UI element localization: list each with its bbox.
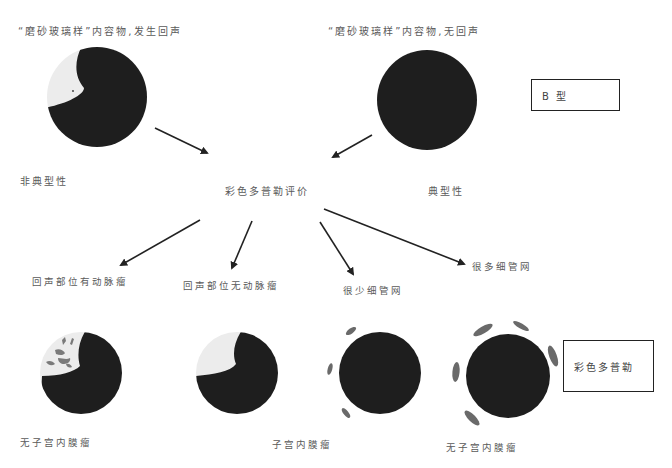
- outcome-circle-echo-only: [194, 330, 282, 420]
- typical-cyst-circle: [377, 50, 477, 150]
- atypical-label: 非典型性: [20, 173, 68, 188]
- typical-label: 典型性: [428, 183, 464, 198]
- outcome-circle-many-capillaries: [452, 319, 561, 427]
- outcome-no-endometrioma-2: 无子宫内膜瘤: [446, 440, 518, 454]
- top-left-description: “磨砂玻璃样”内容物,发生回声: [18, 23, 182, 38]
- flow-arrows: [121, 128, 464, 274]
- outcome-endometrioma: 子宫内膜瘤: [272, 437, 332, 451]
- few-capillaries-label: 很少细管网: [343, 283, 403, 297]
- echo-with-aneurysm-label: 回声部位有动脉瘤: [32, 274, 128, 288]
- outcome-circle-with-vessels: [40, 330, 125, 420]
- echo-without-aneurysm-label: 回声部位无动脉瘤: [183, 278, 279, 292]
- arrow-eval-to-many-capillaries: [324, 209, 464, 264]
- top-right-description: “磨砂玻璃样”内容物,无回声: [328, 23, 480, 38]
- arrow-eval-to-echo-artery: [121, 220, 200, 265]
- many-capillaries-label: 很多细管网: [472, 259, 532, 273]
- color-doppler-box: 彩色多普勒: [563, 340, 654, 392]
- arrow-atypical-to-eval: [155, 128, 207, 153]
- arrow-typical-to-eval: [333, 135, 372, 157]
- atypical-cyst-circle: [44, 40, 160, 160]
- arrow-eval-to-echo-no-artery: [232, 221, 252, 268]
- doppler-evaluation-label: 彩色多普勒评价: [225, 183, 309, 198]
- diagram-canvas: [0, 0, 672, 468]
- arrow-eval-to-few-capillaries: [320, 222, 353, 274]
- b-type-box: B 型: [531, 79, 620, 111]
- outcome-no-endometrioma-1: 无子宫内膜瘤: [20, 435, 92, 449]
- outcome-circle-few-capillaries: [326, 325, 421, 419]
